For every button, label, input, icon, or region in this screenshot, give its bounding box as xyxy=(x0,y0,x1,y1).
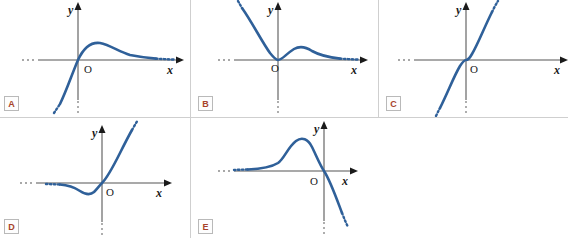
option-letter-a[interactable]: A xyxy=(4,96,19,111)
x-axis-arrow xyxy=(560,57,568,64)
curve-dotted-end xyxy=(342,213,348,227)
option-letter-b[interactable]: B xyxy=(198,96,213,111)
y-axis-label: y xyxy=(66,3,74,17)
curve-dotted-start xyxy=(54,104,60,113)
x-axis-arrow xyxy=(360,57,368,64)
option-cell-b[interactable]: y x O B xyxy=(190,0,378,117)
x-axis-label: x xyxy=(155,186,162,200)
x-axis-label: x xyxy=(553,63,560,77)
graph-e: y x O xyxy=(190,117,378,238)
y-axis-arrow xyxy=(75,2,82,10)
x-axis-label: x xyxy=(166,63,173,77)
curve-dotted-end xyxy=(492,1,498,12)
graph-b: y x O xyxy=(190,0,378,117)
x-axis-arrow xyxy=(176,57,184,64)
graph-a: y x O xyxy=(0,0,190,117)
y-axis-arrow xyxy=(321,121,328,129)
x-axis-arrow xyxy=(350,168,358,175)
option-cell-e[interactable]: y x O E xyxy=(190,117,378,238)
y-axis-label: y xyxy=(454,3,462,17)
curve-dotted-start xyxy=(46,184,60,185)
y-axis-label: y xyxy=(312,122,320,136)
curve-path xyxy=(60,43,156,104)
origin-label: O xyxy=(310,175,318,187)
origin-label: O xyxy=(84,63,92,75)
option-letter-d[interactable]: D xyxy=(4,219,19,234)
option-letter-c[interactable]: C xyxy=(386,96,401,111)
y-axis-label: y xyxy=(90,126,98,140)
x-axis-arrow xyxy=(164,180,172,187)
x-axis-label: x xyxy=(350,63,357,77)
row-divider-horizontal xyxy=(378,117,568,118)
options-grid: y x O A y x O B xyxy=(0,0,568,238)
option-letter-e[interactable]: E xyxy=(198,219,213,234)
option-cell-a[interactable]: y x O A xyxy=(0,0,190,117)
curve-dotted-start xyxy=(234,170,248,171)
curve-dotted-start xyxy=(238,1,242,8)
graph-d: y x O xyxy=(0,117,190,238)
y-axis-arrow xyxy=(463,2,470,10)
y-axis-label: y xyxy=(266,3,274,17)
curve-path xyxy=(242,8,340,60)
y-axis-arrow xyxy=(99,125,106,133)
option-cell-c[interactable]: y x O C xyxy=(378,0,568,117)
empty-cell xyxy=(378,117,568,238)
curve-dotted-start xyxy=(436,108,440,116)
x-axis-label: x xyxy=(341,174,348,188)
origin-label: O xyxy=(470,63,478,75)
curve-path xyxy=(248,139,342,213)
graph-c: y x O xyxy=(378,0,568,117)
option-cell-d[interactable]: y x O D xyxy=(0,117,190,238)
origin-label: O xyxy=(271,62,279,74)
y-axis-arrow xyxy=(275,2,282,10)
curve-dotted-end xyxy=(132,120,138,130)
origin-label: O xyxy=(106,186,114,198)
